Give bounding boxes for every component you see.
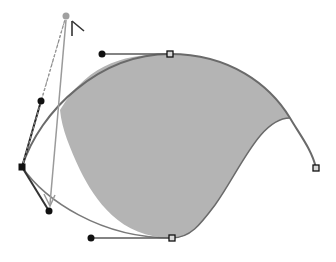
handle-dot-left-out[interactable] (46, 208, 53, 215)
cursor-arrow-icon (72, 21, 84, 36)
anchor-point-end[interactable] (313, 165, 319, 171)
handle-line-left-out (22, 167, 49, 211)
bezier-diagram (0, 0, 336, 262)
ghost-handle-dot (63, 13, 70, 20)
anchor-point-left-selected[interactable] (19, 164, 26, 171)
canvas[interactable] (0, 0, 336, 262)
anchor-point-top[interactable] (167, 51, 173, 57)
anchor-point-bottom[interactable] (169, 235, 175, 241)
handle-dot-bottom[interactable] (88, 235, 95, 242)
handle-dot-top[interactable] (99, 51, 106, 58)
handle-dot-left-in[interactable] (38, 98, 45, 105)
